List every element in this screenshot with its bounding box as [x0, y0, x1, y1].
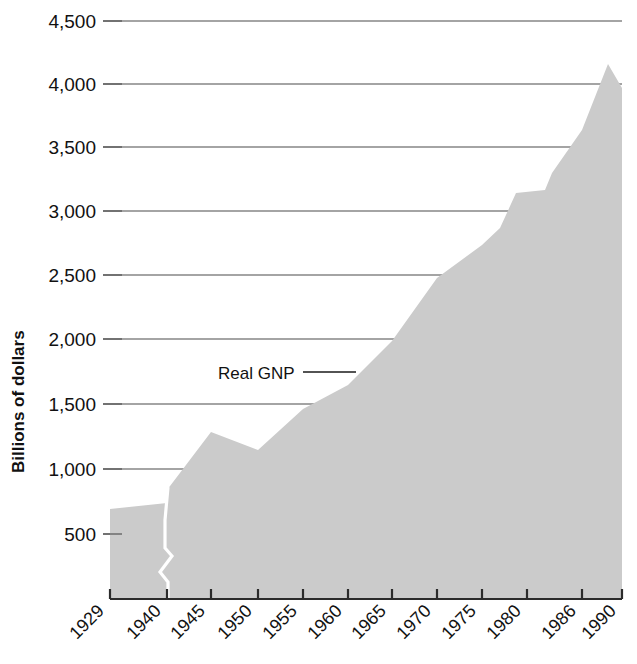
series-label-real-gnp: Real GNP [218, 364, 295, 383]
xtick-label-1965: 1965 [347, 601, 389, 643]
xtick-label-1975: 1975 [437, 601, 479, 643]
xtick-label-1945: 1945 [166, 601, 208, 643]
xtick-label-1970: 1970 [392, 601, 434, 643]
xtick-label-1986: 1986 [537, 601, 579, 643]
ytick-label-2000: 2,000 [48, 329, 96, 350]
xtick-label-1990: 1990 [577, 601, 619, 643]
y-axis-title: Billions of dollars [9, 330, 28, 473]
xtick-label-1960: 1960 [303, 601, 345, 643]
ytick-label-4500: 4,500 [48, 11, 96, 32]
ytick-label-1000: 1,000 [48, 459, 96, 480]
y-tick-labels: 4,500 4,000 3,500 3,000 2,500 2,000 1,50… [48, 11, 96, 545]
ytick-label-1500: 1,500 [48, 394, 96, 415]
area-path-pre-break [110, 503, 167, 599]
series-annotation: Real GNP [218, 364, 356, 383]
y-tick-marks [103, 21, 122, 534]
gnp-area-chart: 4,500 4,000 3,500 3,000 2,500 2,000 1,50… [0, 0, 637, 664]
series-area-real-gnp [110, 64, 622, 599]
area-path-main [167, 64, 622, 599]
xtick-label-1980: 1980 [482, 601, 524, 643]
ytick-label-3500: 3,500 [48, 137, 96, 158]
x-tick-labels: 1929 1940 1945 1950 1955 1960 1965 1970 … [65, 601, 619, 643]
ytick-label-500: 500 [64, 524, 96, 545]
xtick-label-1955: 1955 [258, 601, 300, 643]
chart-canvas: 4,500 4,000 3,500 3,000 2,500 2,000 1,50… [0, 0, 637, 664]
ytick-label-3000: 3,000 [48, 201, 96, 222]
xtick-label-1950: 1950 [213, 601, 255, 643]
xtick-label-1940: 1940 [122, 601, 164, 643]
ytick-label-2500: 2,500 [48, 265, 96, 286]
ytick-label-4000: 4,000 [48, 74, 96, 95]
xtick-label-1929: 1929 [65, 601, 107, 643]
